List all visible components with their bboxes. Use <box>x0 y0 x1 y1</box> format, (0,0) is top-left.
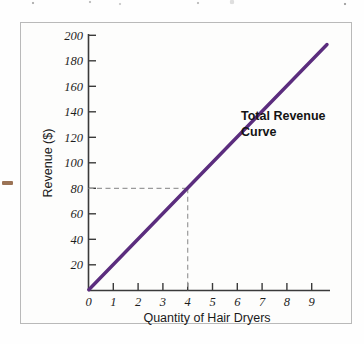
y-tick-label-200: 200 <box>64 29 84 43</box>
y-axis-title: Revenue ($) <box>41 129 55 198</box>
x-tick-label-1: 1 <box>110 295 116 309</box>
figure-page: 200 180 160 140 120 100 80 60 40 20 <box>0 0 364 344</box>
x-tick-label-9: 9 <box>309 295 316 309</box>
y-tick-marks <box>89 35 97 264</box>
curve-label-line-2: Curve <box>241 125 276 139</box>
x-tick-label-2: 2 <box>135 295 141 309</box>
x-tick-label-7: 7 <box>259 295 266 309</box>
curve-label-line-1: Total Revenue <box>241 109 326 123</box>
y-tick-label-80: 80 <box>71 182 84 196</box>
revenue-chart: 200 180 160 140 120 100 80 60 40 20 <box>0 0 364 344</box>
x-tick-label-8: 8 <box>284 295 291 309</box>
x-tick-label-0: 0 <box>85 295 92 309</box>
y-tick-label-120: 120 <box>64 131 84 145</box>
x-tick-label-4: 4 <box>185 295 191 309</box>
y-tick-label-160: 160 <box>64 80 84 94</box>
x-tick-label-5: 5 <box>209 295 215 309</box>
x-axis-title: Quantity of Hair Dryers <box>143 311 270 325</box>
curve-annotation: Total Revenue Curve <box>241 109 326 139</box>
y-tick-label-40: 40 <box>71 233 84 247</box>
total-revenue-curve <box>89 45 327 290</box>
y-tick-label-20: 20 <box>71 258 84 272</box>
x-tick-label-6: 6 <box>234 295 241 309</box>
x-tick-marks <box>113 283 311 291</box>
y-tick-label-140: 140 <box>64 105 84 119</box>
x-tick-label-3: 3 <box>159 295 166 309</box>
y-tick-label-60: 60 <box>71 207 84 221</box>
chart-svg: 200 180 160 140 120 100 80 60 40 20 <box>0 0 364 344</box>
y-tick-labels: 200 180 160 140 120 100 80 60 40 20 <box>64 29 84 272</box>
x-tick-labels: 0 1 2 3 4 5 6 7 8 9 <box>85 295 315 309</box>
y-tick-label-100: 100 <box>64 156 84 170</box>
y-tick-label-180: 180 <box>64 54 84 68</box>
